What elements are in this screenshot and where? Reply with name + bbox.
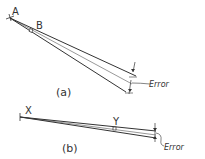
- label-a: A: [12, 6, 19, 17]
- label-x: X: [25, 105, 32, 116]
- arrow-down-icon: [131, 69, 135, 72]
- error-leader: [132, 83, 150, 84]
- label-y: Y: [112, 116, 120, 127]
- line-lower-b: [20, 117, 156, 138]
- caption-a: (a): [56, 86, 71, 99]
- line-upper: [10, 18, 136, 76]
- caption-b: (b): [62, 142, 78, 155]
- error-leader-b: [156, 133, 164, 146]
- line-lower: [10, 18, 126, 92]
- error-label-b: Error: [164, 143, 185, 152]
- figure-a: A B Error (a): [6, 6, 170, 99]
- line-middle: [10, 18, 132, 84]
- error-label-a: Error: [149, 80, 170, 89]
- figure-b: X Y Error (b): [20, 105, 185, 155]
- point-y-marker: [113, 127, 116, 130]
- diagram-canvas: A B Error (a) X Y Error (b): [0, 0, 205, 159]
- arrow-up-icon: [128, 89, 132, 92]
- line-upper-b: [20, 117, 156, 131]
- label-b: B: [36, 20, 43, 31]
